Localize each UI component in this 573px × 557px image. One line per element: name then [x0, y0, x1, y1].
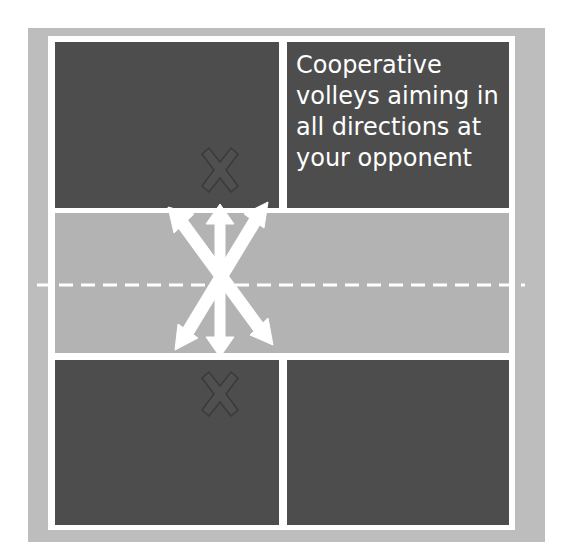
player-marker-bottom-x-icon [202, 372, 238, 416]
direction-arrows-icon [168, 202, 273, 357]
player-marker-top-x-icon [202, 148, 238, 192]
diagram-overlay [0, 0, 573, 557]
